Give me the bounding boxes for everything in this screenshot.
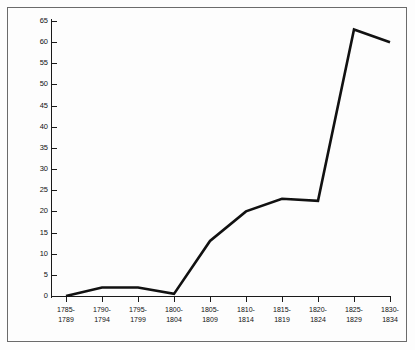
- line-series: [0, 0, 415, 350]
- chart-figure: 65605550454035302520151050 1785-17891790…: [0, 0, 415, 350]
